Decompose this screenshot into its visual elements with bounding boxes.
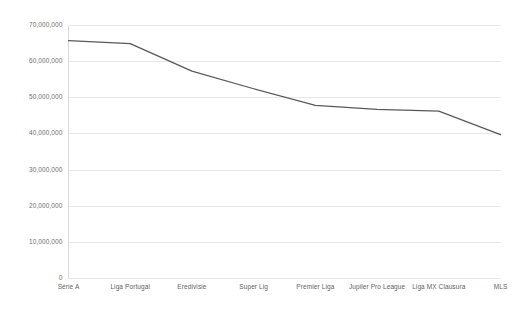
- chart-plot-area: [0, 0, 517, 311]
- y-tick-label: 30,000,000: [7, 166, 63, 173]
- y-tick-label: 10,000,000: [7, 238, 63, 245]
- gridlines: [69, 26, 501, 279]
- data-series-line: [69, 41, 501, 135]
- y-tick-label: 70,000,000: [7, 21, 63, 28]
- y-tick-label: 50,000,000: [7, 93, 63, 100]
- y-tick-label: 20,000,000: [7, 202, 63, 209]
- y-tick-label: 40,000,000: [7, 129, 63, 136]
- x-tick-label: MLS: [463, 283, 517, 290]
- y-tick-label: 0: [7, 274, 63, 281]
- y-tick-label: 60,000,000: [7, 57, 63, 64]
- line-chart: 010,000,00020,000,00030,000,00040,000,00…: [0, 0, 517, 311]
